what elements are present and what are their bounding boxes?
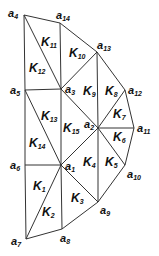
element-label-k6: K6: [113, 130, 126, 144]
vertex-label-a3: a3: [65, 83, 75, 96]
vertex-label-a8: a8: [60, 232, 70, 245]
edge-a14-a3: [60, 23, 61, 89]
edge-a5-a3: [25, 89, 61, 90]
edge-a11-a10: [125, 128, 134, 165]
vertex-label-a6: a6: [10, 159, 20, 172]
triangular-mesh-diagram: a1a2a3a4a5a6a7a8a9a10a11a12a13a14 K1K2K3…: [0, 0, 159, 256]
edge-a8-a1: [61, 165, 62, 229]
vertex-label-a1: a1: [65, 160, 75, 173]
element-label-k2: K2: [42, 205, 55, 219]
element-label-k3: K3: [71, 191, 84, 205]
element-label-k14: K14: [29, 136, 46, 150]
vertex-label-a12: a12: [128, 84, 142, 97]
edge-a13-a2: [97, 52, 98, 128]
edge-a9-a8: [62, 202, 98, 229]
element-label-k9: K9: [83, 84, 96, 98]
element-label-k15: K15: [63, 121, 80, 135]
element-label-k12: K12: [29, 61, 46, 75]
edge-a4-a3: [24, 15, 61, 89]
vertex-label-a9: a9: [100, 204, 110, 217]
edge-a4-a14: [24, 15, 60, 23]
vertex-label-a5: a5: [10, 84, 20, 97]
element-label-k13: K13: [41, 109, 58, 123]
edge-a5-a4: [24, 15, 25, 90]
element-label-k4: K4: [83, 155, 96, 169]
edge-a14-a13: [60, 23, 97, 52]
element-label-k1: K1: [33, 179, 46, 193]
edge-a8-a7: [26, 229, 62, 239]
element-label-k11: K11: [41, 35, 57, 49]
vertex-label-a7: a7: [11, 235, 22, 248]
vertex-label-a13: a13: [97, 39, 111, 52]
edge-a5-a1: [25, 90, 61, 165]
element-label-k8: K8: [105, 84, 118, 98]
vertex-label-a10: a10: [127, 168, 141, 181]
vertex-label-a14: a14: [56, 9, 70, 22]
element-label-k10: K10: [69, 46, 86, 60]
vertex-label-a2: a2: [84, 118, 94, 131]
element-labels: K1K2K3K4K5K6K7K8K9K10K11K12K13K14K15: [29, 35, 127, 219]
element-label-k5: K5: [105, 155, 118, 169]
vertex-label-a11: a11: [137, 122, 150, 135]
edge-a10-a9: [98, 165, 125, 202]
edge-a7-a6: [25, 165, 26, 239]
element-label-k7: K7: [113, 107, 127, 121]
vertex-label-a4: a4: [8, 7, 18, 20]
edge-a7-a1: [26, 165, 61, 239]
